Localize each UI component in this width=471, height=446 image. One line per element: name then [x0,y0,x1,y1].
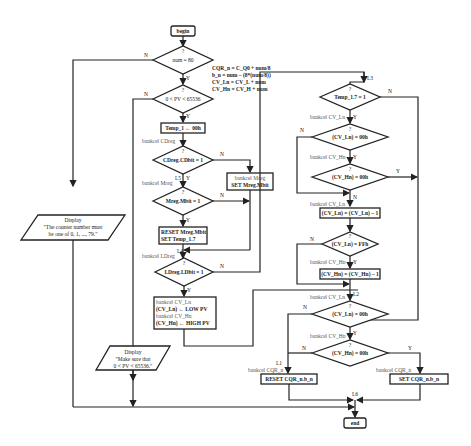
svg-text:Display: Display [64,217,81,223]
svg-text:"Make sure that: "Make sure that [116,356,151,362]
svg-text:RESET CQR_n.b_n: RESET CQR_n.b_n [265,376,313,382]
decision-pv-range: ? 0 < PV < 65536 [153,85,213,113]
svg-text:bankcel CV_Hn: bankcel CV_Hn [156,313,192,319]
svg-text:bankcel Mreg: bankcel Mreg [142,180,173,186]
svg-text:L3: L3 [367,75,373,81]
decision-cvln-00-a: ? (CV_Ln) = 00h [312,124,388,150]
svg-text:Y: Y [186,217,190,223]
svg-text:N: N [302,345,306,351]
svg-text:Y: Y [353,259,357,265]
svg-text:bankcel LDreg: bankcel LDreg [142,253,175,259]
decision-cdreg: ? CDreg.CDbit = 1 [153,146,213,174]
svg-text:Y: Y [186,75,190,81]
begin-terminal: begin [171,26,195,36]
svg-text:begin: begin [177,28,190,34]
svg-text:Mreg.Mbit = 1: Mreg.Mbit = 1 [166,198,201,204]
svg-text:bankcel CV_Hn: bankcel CV_Hn [310,333,346,339]
svg-text:bankcel CV_Hn: bankcel CV_Hn [310,259,346,265]
svg-text:Y: Y [353,330,357,336]
flowchart: begin ? num = 80 N Y CQR_n = C_Q0 + num/… [0,0,471,446]
svg-text:L5: L5 [175,175,181,181]
svg-text:num = 80: num = 80 [172,57,193,63]
process-reset-mreg: RESET Mreg.Mbit SET Temp_1.7 [159,227,207,244]
svg-text:(CV_Hn) = (CV_Hn) – 1: (CV_Hn) = (CV_Hn) – 1 [321,271,379,278]
decision-cvln-ff: ? (CV_Ln) = FFh [322,232,378,256]
svg-text:bankcel CV_Ln: bankcel CV_Ln [310,201,345,207]
svg-text:L2: L2 [353,291,359,297]
process-temp-init: Temp_1 ← 00h [161,123,205,133]
process-dec-cvhn: (CV_Hn) = (CV_Hn) – 1 [320,269,380,279]
svg-text:Display: Display [124,349,141,355]
svg-text:N: N [144,52,148,58]
decision-temp17: ? Temp_1.7 = 1 [320,84,380,110]
svg-text:N: N [303,304,307,310]
process-set-mreg: bankcel Mreg SET Mreg.Mbit [227,173,273,190]
svg-text:bankcel CDreg: bankcel CDreg [142,138,175,144]
svg-text:RESET Mreg.Mbit: RESET Mreg.Mbit [161,229,206,235]
decision-cvln-00-b: ? (CV_Ln) = 00h [312,301,388,327]
svg-text:Y: Y [353,154,357,160]
svg-text:L6: L6 [352,391,358,397]
decision-cvhn-00-a: ? (CV_Hn) = 00h [312,164,388,190]
svg-text:SET Mreg.Mbit: SET Mreg.Mbit [231,182,269,188]
svg-text:CQR_n = C_Q0 + num/8: CQR_n = C_Q0 + num/8 [212,65,271,71]
svg-text:(CV_Ln) ← LOW PV: (CV_Ln) ← LOW PV [156,306,207,313]
svg-text:bankcel CV_Hn: bankcel CV_Hn [310,154,346,160]
svg-text:N: N [310,236,314,242]
svg-text:Y: Y [353,114,357,120]
svg-text:bankcel CQR_n: bankcel CQR_n [248,367,284,373]
svg-text:(CV_Ln) = (CV_Ln) – 1: (CV_Ln) = (CV_Ln) – 1 [322,210,379,217]
svg-text:b_n = num – (8*(num/8)): b_n = num – (8*(num/8)) [212,72,271,79]
svg-text:bankcel CV_Ln: bankcel CV_Ln [310,114,345,120]
decision-num-80: ? num = 80 [153,46,213,74]
svg-text:L4: L4 [177,248,183,254]
svg-text:N: N [220,151,224,157]
svg-text:"The counter number must: "The counter number must [44,224,103,230]
decision-cvhn-00-b: ? (CV_Hn) = 00h [312,340,388,366]
svg-text:(CV_Hn) ← HIGH PV: (CV_Hn) ← HIGH PV [156,320,210,327]
svg-text:SET Temp_1.7: SET Temp_1.7 [161,236,196,242]
svg-text:0 < PV < 65536: 0 < PV < 65536 [165,96,200,102]
svg-text:0 < PV < 65536.": 0 < PV < 65536." [114,363,153,369]
svg-text:CDreg.CDbit = 1: CDreg.CDbit = 1 [163,157,203,163]
svg-text:Y: Y [186,113,190,119]
svg-text:(CV_Ln) = 00h: (CV_Ln) = 00h [332,134,368,141]
svg-text:N: N [388,88,392,94]
process-dec-cvln: (CV_Ln) = (CV_Ln) – 1 [320,208,380,218]
svg-text:N: N [220,192,224,198]
svg-text:be one of 0, 1, ..., 79.": be one of 0, 1, ..., 79." [49,231,98,237]
svg-text:bankcel Mreg: bankcel Mreg [235,175,266,181]
svg-text:(CV_Ln) = FFh: (CV_Ln) = FFh [332,241,369,248]
svg-text:N: N [353,194,357,200]
svg-text:L1: L1 [276,360,282,366]
svg-text:end: end [351,420,360,426]
process-reset-cqr: RESET CQR_n.b_n [261,374,317,384]
svg-text:N: N [300,127,304,133]
svg-text:Y: Y [408,345,412,351]
svg-text:Temp_1 ← 00h: Temp_1 ← 00h [165,125,201,131]
svg-text:Y: Y [186,175,190,181]
svg-text:(CV_Ln) = 00h: (CV_Ln) = 00h [332,311,368,318]
svg-text:bankcel CV_Ln: bankcel CV_Ln [310,294,345,300]
svg-text:bankcel CQR_n: bankcel CQR_n [376,367,412,373]
process-set-cqr: SET CQR_n.b_n [390,374,448,384]
svg-text:bankcel CV_Ln: bankcel CV_Ln [156,299,191,305]
process-load-cv: bankcel CV_Ln (CV_Ln) ← LOW PV bankcel C… [154,297,216,329]
svg-text:N: N [144,91,148,97]
svg-text:CV_Ln = CV_L + num: CV_Ln = CV_L + num [212,79,266,85]
decision-mreg: ? Mreg.Mbit = 1 [153,187,213,215]
decision-ldreg: ? LDreg.LDbit = 1 [155,258,213,286]
svg-text:Y: Y [187,287,191,293]
display-counter-range: Display "The counter number must be one … [21,215,125,240]
equations-annotation: CQR_n = C_Q0 + num/8 b_n = num – (8*(num… [212,65,271,92]
svg-text:(CV_Hn) = 00h: (CV_Hn) = 00h [332,350,368,357]
svg-text:N: N [220,263,224,269]
end-terminal: end [344,418,366,428]
svg-text:SET CQR_n.b_n: SET CQR_n.b_n [399,376,439,382]
svg-text:LDreg.LDbit = 1: LDreg.LDbit = 1 [164,269,203,275]
svg-text:(CV_Hn) = 00h: (CV_Hn) = 00h [332,174,368,181]
svg-text:Temp_1.7 = 1: Temp_1.7 = 1 [334,94,366,100]
display-pv-range: Display "Make sure that 0 < PV < 65536." [96,346,170,370]
svg-text:Y: Y [396,168,400,174]
